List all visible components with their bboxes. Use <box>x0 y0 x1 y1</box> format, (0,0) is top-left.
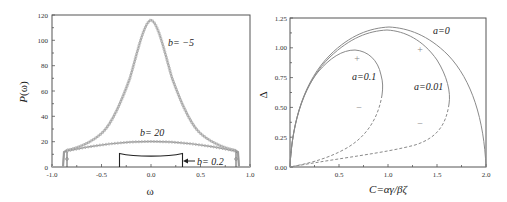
arrow-b-0.2 <box>183 159 195 164</box>
right-ytick-0: 0.00 <box>275 164 288 172</box>
right-x-axis-title-text: C=αγ/βζ <box>369 183 408 196</box>
left-ytick-40: 40 <box>41 113 49 121</box>
marker-minus-a001: − <box>417 118 423 129</box>
right-x-axis-title: C=αγ/βζ <box>369 183 408 196</box>
label-b-minus5-text: b= −5 <box>168 37 194 48</box>
right-xtick-15: 1.5 <box>433 171 442 179</box>
right-ytick-125: 1.25 <box>275 15 288 23</box>
marker-plus-a01: + <box>354 53 360 64</box>
left-y-tick-labels: 0 20 40 60 80 100 120 <box>38 12 49 172</box>
curve-a-0.01-dashed <box>290 104 449 167</box>
label-b-0.2-text: b= 0.2 <box>197 156 224 167</box>
left-chart: 0 20 40 60 80 100 120 -1.0 -0.5 0.0 0.5 … <box>17 12 255 198</box>
left-xtick-1: 1.0 <box>246 171 255 179</box>
label-b-0.2: b= 0.2 <box>197 156 224 167</box>
right-xtick-20: 2.0 <box>482 171 491 179</box>
marker-minus-a01: − <box>356 102 362 113</box>
left-xtick-m1: -1.0 <box>46 171 58 179</box>
label-a-0: a=0 <box>433 25 450 36</box>
marker-plus-a001: + <box>417 44 423 55</box>
label-b-minus5: b= −5 <box>168 37 194 48</box>
left-x-tick-labels: -1.0 -0.5 0.0 0.5 1.0 <box>46 171 254 179</box>
left-y-axis-title: P(ω) <box>17 81 30 104</box>
curve-b-minus5 <box>52 20 250 167</box>
label-a-0.1-text: a=0.1 <box>352 71 376 82</box>
left-x-axis-title: ω <box>146 185 153 197</box>
figure: 0 20 40 60 80 100 120 -1.0 -0.5 0.0 0.5 … <box>0 0 507 202</box>
right-chart: 0.00 0.25 0.50 0.75 1.00 1.25 0.5 1.0 1.… <box>257 15 491 197</box>
label-a-0.01-text: a=0.01 <box>414 81 443 92</box>
right-x-tick-labels: 0.5 1.0 1.5 2.0 <box>335 171 491 179</box>
right-ytick-075: 0.75 <box>275 74 288 82</box>
left-xtick-05: 0.5 <box>196 171 205 179</box>
right-y-tick-labels: 0.00 0.25 0.50 0.75 1.00 1.25 <box>275 15 288 172</box>
label-a-0.1: a=0.1 <box>352 71 376 82</box>
right-y-axis-title: Δ <box>257 91 269 98</box>
left-ytick-80: 80 <box>41 62 49 70</box>
label-b-20-text: b= 20 <box>140 127 164 138</box>
left-ytick-60: 60 <box>41 88 49 96</box>
label-a-0.01: a=0.01 <box>414 81 443 92</box>
right-ytick-050: 0.50 <box>275 104 288 112</box>
curve-a-0.1-dashed <box>290 95 382 167</box>
left-y-axis-title-arg: (ω) <box>17 81 30 96</box>
right-xtick-10: 1.0 <box>384 171 393 179</box>
left-ytick-100: 100 <box>38 37 49 45</box>
curve-a-0.1-solid <box>290 50 383 167</box>
curve-a-0.01-solid <box>290 30 450 167</box>
right-plot-frame <box>290 18 486 167</box>
curve-a-0 <box>290 27 486 167</box>
right-ytick-100: 1.00 <box>275 44 288 52</box>
left-ytick-20: 20 <box>41 138 49 146</box>
right-ytick-025: 0.25 <box>275 134 288 142</box>
left-xtick-0: 0.0 <box>147 171 156 179</box>
right-xtick-05: 0.5 <box>335 171 344 179</box>
left-ytick-120: 120 <box>38 12 49 20</box>
label-a-0-text: a=0 <box>433 25 450 36</box>
left-xtick-m05: -0.5 <box>96 171 108 179</box>
label-b-20: b= 20 <box>140 127 164 138</box>
